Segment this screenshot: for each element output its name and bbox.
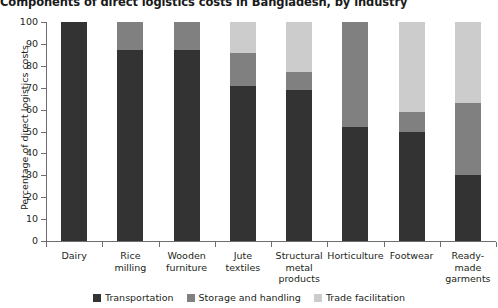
bar-group[interactable] [399,22,425,241]
legend-item[interactable]: Trade facilitation [314,292,405,303]
legend-swatch-icon [187,294,195,302]
y-axis-tick-label: 90 [2,39,38,49]
legend-label: Storage and handling [199,292,301,303]
x-axis-category-label-line: Footwear [384,250,440,262]
legend-swatch-icon [93,294,101,302]
bar-segment[interactable] [174,50,200,241]
bar-segment[interactable] [399,132,425,242]
bar-segment[interactable] [455,175,481,241]
bar-group[interactable] [174,22,200,241]
legend-label: Trade facilitation [326,292,405,303]
legend-item[interactable]: Storage and handling [187,292,301,303]
bar-segment[interactable] [399,112,425,132]
x-axis-tick [102,242,103,247]
x-axis-category-label-line: Horticulture [327,250,383,262]
x-axis-category-label-line: Jute [215,250,271,262]
x-axis-category-label-line: Dairy [46,250,102,262]
bar-group[interactable] [286,22,312,241]
chart-title: Components of direct logistics costs in … [0,0,498,9]
x-axis-tick [440,242,441,247]
bar-segment[interactable] [342,127,368,241]
x-axis-category-label-line: textiles [215,262,271,274]
bar-segment[interactable] [286,90,312,241]
y-axis-tick-label: 100 [2,17,38,27]
x-axis-tick [159,242,160,247]
y-axis-tick-label: 40 [2,148,38,158]
x-axis-tick [46,242,47,247]
bar-segment[interactable] [230,22,256,53]
y-axis-tick-label: 80 [2,61,38,71]
bar-segment[interactable] [61,22,87,241]
bar-segment[interactable] [286,72,312,90]
bar-segment[interactable] [230,53,256,86]
y-axis-tick-label: 70 [2,83,38,93]
x-axis-category-label: Dairy [46,250,102,262]
bar-segment[interactable] [117,50,143,241]
x-axis-tick [215,242,216,247]
x-axis-category-label-line: Structural [271,250,327,262]
x-axis-category-label-line: made [440,262,496,274]
y-axis-tick-label: 60 [2,105,38,115]
x-axis-tick [384,242,385,247]
y-axis-tick-label: 0 [2,236,38,246]
y-axis-tick-label: 20 [2,192,38,202]
bar-group[interactable] [455,22,481,241]
x-axis-category-label-line: metal [271,262,327,274]
x-axis-category-label-line: Ready- [440,250,496,262]
bar-group[interactable] [342,22,368,241]
chart-legend: TransportationStorage and handlingTrade … [0,292,498,303]
stacked-bar-chart: Components of direct logistics costs in … [0,0,498,308]
x-axis-category-label-line: milling [102,262,158,274]
y-axis-tick-label: 10 [2,214,38,224]
x-axis-category-label: Woodenfurniture [159,250,215,273]
plot-area [46,22,496,241]
bar-segment[interactable] [286,22,312,72]
bar-group[interactable] [61,22,87,241]
x-axis-category-label: Footwear [384,250,440,262]
bar-segment[interactable] [117,22,143,50]
x-axis-category-label-line: Wooden [159,250,215,262]
x-axis-category-label: Ready-madegarments [440,250,496,285]
legend-label: Transportation [105,292,174,303]
bar-segment[interactable] [455,103,481,175]
x-axis-tick [327,242,328,247]
x-axis-category-label-line: products [271,273,327,285]
x-axis-category-label: Ricemilling [102,250,158,273]
x-axis-tick [271,242,272,247]
x-axis-category-label: Structuralmetalproducts [271,250,327,285]
x-axis-category-label-line: Rice [102,250,158,262]
bar-segment[interactable] [230,86,256,241]
x-axis-category-label: Horticulture [327,250,383,262]
bar-segment[interactable] [399,22,425,112]
bar-group[interactable] [117,22,143,241]
x-axis-category-label-line: garments [440,273,496,285]
bar-segment[interactable] [455,22,481,103]
x-axis-category-label-line: furniture [159,262,215,274]
y-axis-tick-label: 50 [2,127,38,137]
legend-swatch-icon [314,294,322,302]
bar-segment[interactable] [342,22,368,127]
legend-item[interactable]: Transportation [93,292,174,303]
bar-segment[interactable] [174,22,200,50]
x-axis-category-label: Jutetextiles [215,250,271,273]
x-axis-tick [496,242,497,247]
bar-group[interactable] [230,22,256,241]
y-axis-tick-label: 30 [2,170,38,180]
